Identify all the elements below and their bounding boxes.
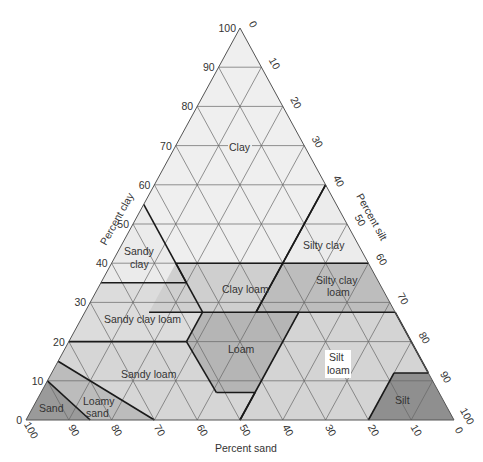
tick-label: 40 — [280, 422, 296, 438]
tick-label: 100 — [458, 405, 477, 426]
tick-label: 80 — [182, 100, 194, 112]
label-sandy-clay-2: clay — [130, 258, 149, 270]
label-sandy-clay-loam: Sandy clay loam — [104, 313, 181, 325]
tick-label: 30 — [310, 134, 326, 150]
tick-label: 60 — [139, 179, 151, 191]
label-silt-loam-1: Silt — [329, 351, 344, 363]
label-silty-clay: Silty clay — [303, 239, 345, 251]
tick-label: 100 — [218, 22, 236, 34]
tick-label: 0 — [453, 425, 466, 436]
tick-label: 80 — [417, 330, 433, 346]
tick-label: 20 — [366, 422, 382, 438]
label-clay-loam: Clay loam — [222, 283, 269, 295]
label-silt: Silt — [395, 394, 410, 406]
tick-label: 0 — [16, 414, 22, 426]
sand-axis-title: Percent sand — [215, 442, 277, 454]
label-silty-clay-loam-1: Silty clay — [316, 274, 358, 286]
label-clay: Clay — [229, 141, 251, 153]
tick-label: 20 — [288, 94, 304, 110]
tick-label: 10 — [267, 55, 283, 71]
tick-label: 60 — [195, 422, 211, 438]
tick-label: 40 — [96, 257, 108, 269]
tick-label: 90 — [203, 61, 215, 73]
label-silt-loam-2: loam — [327, 364, 350, 376]
tick-label: 80 — [109, 422, 125, 438]
tick-label: 10 — [409, 422, 425, 438]
tick-label: 70 — [152, 422, 168, 438]
tick-label: 10 — [32, 375, 44, 387]
soil-texture-triangle: 0102030405060708090100010203040506070809… — [0, 0, 483, 462]
label-loam: Loam — [228, 343, 255, 355]
tick-label: 20 — [53, 336, 65, 348]
tick-label: 0 — [247, 19, 260, 30]
tick-label: 100 — [22, 419, 41, 440]
tick-label: 70 — [395, 290, 411, 306]
tick-label: 70 — [160, 140, 172, 152]
tick-label: 40 — [331, 173, 347, 189]
label-silty-clay-loam-2: loam — [327, 286, 350, 298]
tick-label: 90 — [66, 422, 82, 438]
label-sandy-loam: Sandy loam — [121, 368, 177, 380]
tick-label: 90 — [438, 369, 454, 385]
tick-label: 50 — [237, 422, 253, 438]
label-loamy-sand-1: Loamy — [83, 395, 115, 407]
tick-label: 30 — [75, 296, 87, 308]
tick-label: 30 — [323, 422, 339, 438]
label-loamy-sand-2: sand — [86, 407, 109, 419]
label-sandy-clay-1: Sandy — [124, 245, 155, 257]
tick-label: 60 — [374, 251, 390, 267]
label-sand: Sand — [39, 402, 64, 414]
